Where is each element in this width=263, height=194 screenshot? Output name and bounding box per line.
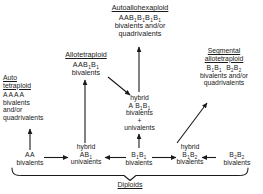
hybrid-ab1-line1: univalents: [62, 158, 110, 166]
node-hybrid-ab1: hybrid AB1 univalents: [62, 143, 110, 166]
allotetraploid-title: Allotetraploid: [47, 51, 125, 59]
b2b2-line1: bivalents: [214, 159, 260, 167]
hybrid-ab1b1-formula: A B1B1: [112, 102, 167, 110]
hybrid-b1b2-formula: B1B2: [166, 151, 214, 159]
autotetraploid-title-line1: Auto: [3, 74, 59, 82]
segmental-allotetraploid-line2: quadrivalents: [186, 79, 262, 87]
arrow-hybrid-b1b2-to-segmental-allotetraploid: [177, 103, 207, 143]
diagram-canvas: Autoallohexaploid AAB1B1B1B1 bivalents a…: [0, 0, 263, 194]
aa-formula: AA: [8, 151, 52, 159]
node-hybrid-ab1b1: hybrid A B1B1 bivalents + univalents: [112, 94, 167, 132]
autotetraploid-title-line2: tetraploid: [3, 82, 59, 90]
node-b1b1: B1B1 bivalents: [117, 151, 161, 166]
node-autoallohexaploid: Autoallohexaploid AAB1B1B1B1 bivalents a…: [84, 4, 196, 38]
segmental-allotetraploid-title-line2: allotetraploid: [186, 55, 262, 63]
aa-line1: bivalents: [8, 159, 52, 167]
hybrid-b1b2-line1: bivalents: [166, 158, 214, 166]
node-aa: AA bivalents: [8, 151, 52, 166]
segmental-allotetraploid-line1: bivalents and/or: [186, 72, 262, 80]
b1b1-formula: B1B1: [117, 151, 161, 159]
segmental-allotetraploid-formula: B1B1 B2B2: [186, 64, 262, 72]
hybrid-ab1b1-line2: +: [112, 117, 167, 125]
diploids-label: Diploids: [105, 181, 155, 188]
segmental-allotetraploid-title-line1: Segmental: [186, 47, 262, 55]
b1b1-line1: bivalents: [117, 159, 161, 167]
autoallohexaploid-line2: quadrivalents: [84, 30, 196, 38]
hybrid-ab1b1-label: hybrid: [112, 94, 167, 102]
node-hybrid-b1b2: hybrid B1B2 bivalents: [166, 143, 214, 166]
autotetraploid-line1: bivalents: [3, 99, 59, 107]
diploids-bracket: [12, 168, 248, 181]
hybrid-ab1-label: hybrid: [62, 143, 110, 151]
autotetraploid-line3: quadrivalents: [3, 114, 59, 122]
autotetraploid-line2: and/or: [3, 106, 59, 114]
autoallohexaploid-title: Autoallohexaploid: [84, 4, 196, 12]
hybrid-ab1b1-line3: univalents: [112, 124, 167, 132]
node-b2b2: B2B2 bivalents: [214, 151, 260, 166]
hybrid-ab1b1-line1: bivalents: [112, 109, 167, 117]
node-autotetraploid: Auto tetraploid AAAA bivalents and/or qu…: [3, 74, 59, 122]
b2b2-formula: B2B2: [214, 151, 260, 159]
arrow-allotetraploid-to-hybrid-ab1b1: [108, 77, 130, 95]
hybrid-ab1-formula: AB1: [62, 151, 110, 159]
hybrid-b1b2-label: hybrid: [166, 143, 214, 151]
autotetraploid-formula: AAAA: [3, 91, 59, 99]
node-segmental-allotetraploid: Segmental allotetraploid B1B1 B2B2 bival…: [186, 47, 262, 87]
